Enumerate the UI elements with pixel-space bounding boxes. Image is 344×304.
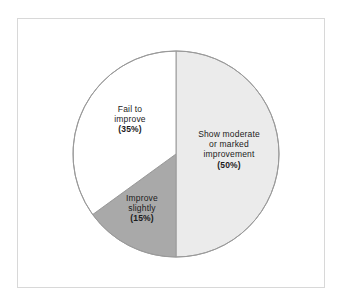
pie-chart-area: Show moderate or marked improvement (50%…: [0, 0, 344, 304]
pie-chart-svg: [0, 0, 344, 304]
pie-chart-figure: Show moderate or marked improvement (50%…: [0, 0, 344, 304]
pie-slice-show-moderate-or-marked-improvement[interactable]: [176, 51, 279, 257]
